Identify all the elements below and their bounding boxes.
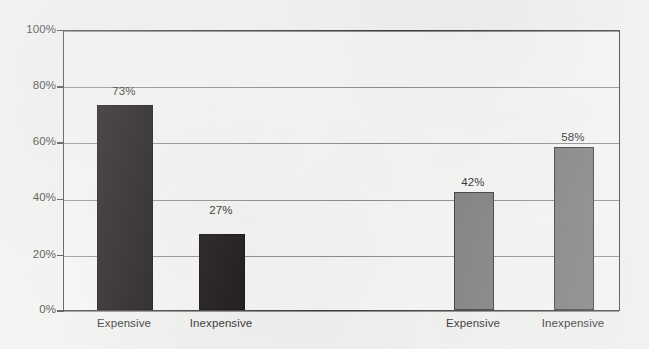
bar-value-27: 27% [181,204,261,216]
bar-value-73: 73% [84,85,164,97]
bar-inexpensive-dark [199,234,245,310]
y-axis-label-0: 0% [0,303,56,315]
plot-area [63,30,620,311]
y-tick-0 [57,310,64,311]
y-axis-label-100: 100% [0,23,56,35]
category-label-inexpensive-2: Inexpensive [513,317,633,329]
bar-value-42: 42% [433,176,513,188]
y-tick-20 [57,255,64,256]
bar-inexpensive-gray [554,147,594,310]
bar-expensive-gray [454,192,494,310]
y-axis-label-20: 20% [0,248,56,260]
gridline-0 [64,311,619,312]
y-tick-40 [57,199,64,200]
y-axis-label-60: 60% [0,135,56,147]
y-tick-80 [57,86,64,87]
y-tick-100 [57,30,64,31]
category-label-inexpensive-1: Inexpensive [161,317,281,329]
y-tick-60 [57,142,64,143]
bar-value-58: 58% [533,131,613,143]
y-axis-label-40: 40% [0,191,56,203]
bar-chart: 100% 80% 60% 40% 20% 0% 73% 27% 42% 58% … [0,0,649,349]
gridline-100 [64,31,619,32]
y-axis-label-80: 80% [0,79,56,91]
bar-expensive-dark [97,105,153,310]
